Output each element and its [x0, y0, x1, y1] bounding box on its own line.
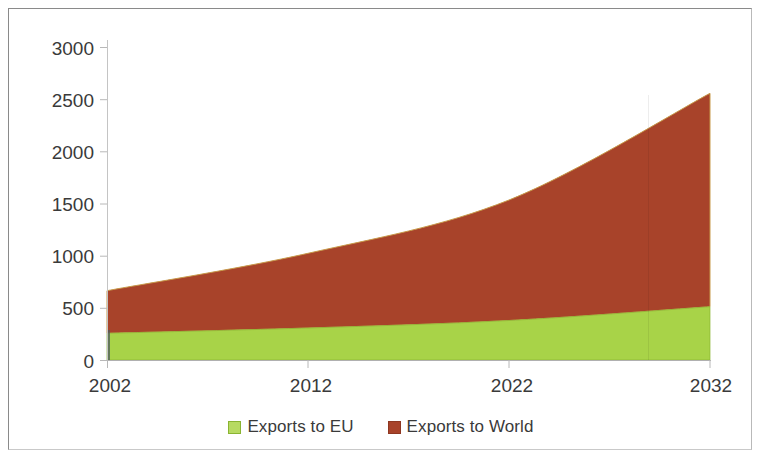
x-tick-label: 2012	[290, 375, 332, 396]
legend-item-exports-to-eu[interactable]: Exports to EU	[228, 417, 353, 437]
legend-item-exports-to-world[interactable]: Exports to World	[388, 417, 534, 437]
scan-seam-artifact	[648, 95, 649, 360]
legend-label-world: Exports to World	[407, 417, 534, 437]
legend-swatch-icon-world	[388, 421, 401, 434]
x-tick-label: 2022	[491, 375, 533, 396]
y-tick-label: 2000	[52, 142, 94, 163]
legend-swatch-icon-eu	[228, 421, 241, 434]
y-tick-label: 3000	[52, 38, 94, 59]
x-tick-label: 2002	[89, 375, 131, 396]
y-tick-label: 0	[83, 351, 94, 372]
y-tick-label: 1000	[52, 246, 94, 267]
legend-label-eu: Exports to EU	[247, 417, 353, 437]
y-tick-label: 500	[62, 298, 94, 319]
y-axis-tick-labels: 3000 2500 2000 1500 1000 500 0	[52, 38, 94, 372]
chart-legend: Exports to EU Exports to World	[0, 417, 762, 437]
chart-figure: 3000 2500 2000 1500 1000 500 0 2002 2012…	[0, 0, 762, 460]
y-tick-label: 2500	[52, 90, 94, 111]
x-tick-label: 2032	[690, 375, 732, 396]
y-tick-label: 1500	[52, 194, 94, 215]
y-axis-ticks	[100, 48, 107, 361]
x-axis-ticks	[108, 360, 711, 368]
x-axis-tick-labels: 2002 2012 2022 2032	[89, 375, 732, 396]
